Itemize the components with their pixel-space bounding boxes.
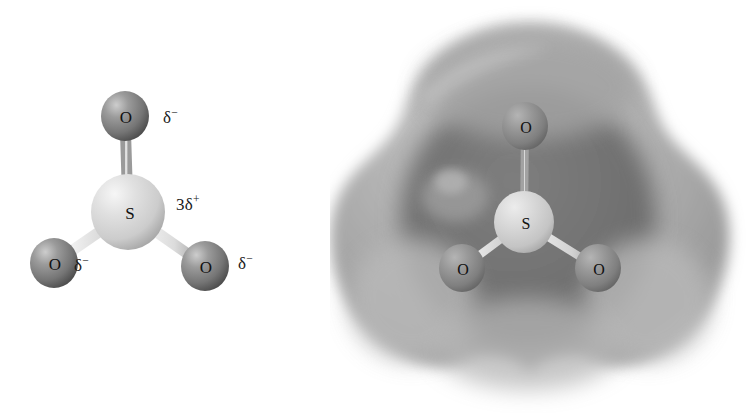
- esp-atom-oxygen-top: O: [502, 102, 548, 150]
- charge-delta-right-base: δ: [238, 254, 246, 273]
- esp-surface-svg: S O O O: [330, 0, 747, 413]
- charge-label-delta-plus-sulfur: 3δ+: [176, 195, 200, 215]
- esp-atom-label-oxygen-lower-left: O: [457, 261, 469, 278]
- atom-label-oxygen-lower-left: O: [49, 255, 61, 274]
- charge-delta-left-sign: −: [82, 254, 89, 267]
- atom-oxygen-lower-right: O: [181, 241, 229, 291]
- ball-and-stick-panel: S O O O δ− 3δ+ δ− δ−: [0, 0, 330, 413]
- charge-delta-left-base: δ: [74, 256, 82, 275]
- charge-delta-sulfur-base: 3δ: [176, 195, 193, 214]
- charge-label-delta-minus-top: δ−: [163, 108, 178, 128]
- charge-delta-right-sign: −: [246, 252, 253, 265]
- atom-oxygen-lower-left: O: [30, 238, 78, 288]
- atom-label-oxygen-top: O: [120, 108, 132, 127]
- figure-container: S O O O δ− 3δ+ δ− δ−: [0, 0, 747, 413]
- atom-sulfur-center: S: [91, 174, 165, 250]
- charge-label-delta-minus-left: δ−: [74, 256, 89, 276]
- atom-label-sulfur: S: [125, 204, 134, 223]
- esp-atom-label-oxygen-lower-right: O: [593, 261, 605, 278]
- esp-atom-label-sulfur: S: [522, 215, 531, 232]
- ball-and-stick-svg: S O O O: [0, 0, 330, 413]
- charge-delta-top-base: δ: [163, 108, 171, 127]
- atom-label-oxygen-lower-right: O: [200, 258, 212, 277]
- charge-label-delta-minus-right: δ−: [238, 254, 253, 274]
- esp-atom-oxygen-lower-right: O: [575, 244, 621, 292]
- esp-atom-oxygen-lower-left: O: [439, 244, 485, 292]
- charge-delta-sulfur-sign: +: [193, 193, 200, 206]
- atom-oxygen-top: O: [101, 91, 149, 141]
- electrostatic-potential-panel: S O O O: [330, 0, 747, 413]
- charge-delta-top-sign: −: [171, 106, 178, 119]
- esp-atom-label-oxygen-top: O: [520, 119, 532, 136]
- esp-atom-sulfur-center: S: [494, 191, 554, 253]
